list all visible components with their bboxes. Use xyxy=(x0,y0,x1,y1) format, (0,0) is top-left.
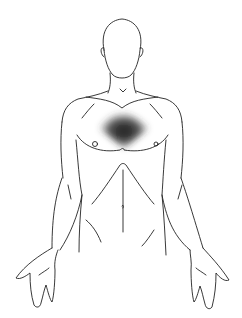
torso-outline xyxy=(0,0,242,318)
chest-pain-highlight xyxy=(98,112,150,150)
head-outline xyxy=(103,19,141,78)
body-illustration xyxy=(0,0,242,318)
